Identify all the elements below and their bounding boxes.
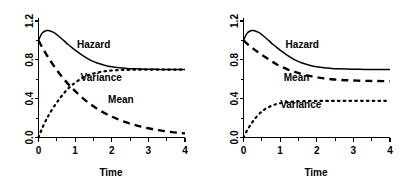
x-tick-labels-left: 01234 xyxy=(36,145,189,156)
x-tick-labels-right: 01234 xyxy=(241,145,394,156)
y-tick-label: 1.2 xyxy=(229,14,240,28)
series-annotations-right: HazardMeanVariance xyxy=(280,39,322,110)
x-tick-label: 4 xyxy=(387,145,393,156)
x-axis-title: Time xyxy=(304,167,328,178)
series-annotations-left: HazardVarianceMean xyxy=(77,39,134,104)
x-tick-label: 4 xyxy=(182,145,188,156)
figure-two-panel-plot: 0.00.40.81.2 01234 HazardVarianceMean Ti… xyxy=(0,0,407,186)
curve-hazard xyxy=(39,30,186,69)
y-tick-label: 0.0 xyxy=(229,130,240,144)
y-tick-label: 0.8 xyxy=(229,52,240,66)
series-label-variance: Variance xyxy=(81,72,123,83)
curve-mean xyxy=(39,40,186,133)
x-tick-label: 2 xyxy=(314,145,320,156)
x-tick-label: 0 xyxy=(241,145,247,156)
x-tick-label: 3 xyxy=(146,145,152,156)
x-axis-title: Time xyxy=(99,167,123,178)
y-tick-label: 0.0 xyxy=(24,130,35,144)
series-label-mean: Mean xyxy=(284,72,310,83)
series-label-hazard: Hazard xyxy=(286,39,319,50)
series-label-hazard: Hazard xyxy=(77,39,110,50)
y-tick-label: 0.4 xyxy=(229,91,240,105)
curves-left xyxy=(39,30,186,137)
y-tick-labels-left: 0.00.40.81.2 xyxy=(24,14,35,145)
y-tick-label: 1.2 xyxy=(24,14,35,28)
y-tick-label: 0.4 xyxy=(24,91,35,105)
x-tick-label: 1 xyxy=(277,145,283,156)
chart-panel-right: 0.00.40.81.2 01234 HazardMeanVariance Ti… xyxy=(203,0,406,186)
y-tick-labels-right: 0.00.40.81.2 xyxy=(229,14,240,145)
y-ticks-left xyxy=(35,21,39,138)
plot-svg-right: 0.00.40.81.2 01234 HazardMeanVariance Ti… xyxy=(203,0,406,186)
x-tick-label: 0 xyxy=(36,145,42,156)
plot-svg-left: 0.00.40.81.2 01234 HazardVarianceMean Ti… xyxy=(0,0,203,186)
x-tick-label: 2 xyxy=(109,145,115,156)
chart-panel-left: 0.00.40.81.2 01234 HazardVarianceMean Ti… xyxy=(0,0,203,186)
x-tick-label: 3 xyxy=(351,145,357,156)
x-ticks-right xyxy=(244,138,391,142)
series-label-variance: Variance xyxy=(280,99,322,110)
y-tick-label: 0.8 xyxy=(24,52,35,66)
series-label-mean: Mean xyxy=(108,94,134,105)
x-tick-label: 1 xyxy=(72,145,78,156)
y-ticks-right xyxy=(240,21,244,138)
x-ticks-left xyxy=(39,138,186,142)
